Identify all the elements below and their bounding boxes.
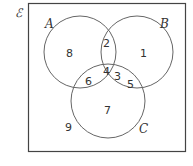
set-a-label: A (44, 17, 54, 31)
element-a-only: 8 (66, 47, 73, 60)
element-outside: 9 (65, 121, 72, 134)
element-b-c-1: 3 (114, 70, 121, 83)
universal-set-symbol: ℰ (15, 6, 24, 20)
set-b-label: B (159, 17, 169, 31)
element-a-b: 2 (103, 37, 110, 50)
element-b-c-2: 5 (127, 78, 134, 91)
element-a-c: 6 (85, 75, 92, 88)
venn-diagram: ℰ A B C 8 1 2 4 6 3 5 7 9 (0, 0, 193, 166)
element-a-b-c: 4 (103, 65, 110, 78)
set-c-label: C (139, 122, 148, 136)
element-b-only: 1 (140, 47, 147, 60)
element-c-only: 7 (104, 104, 111, 117)
